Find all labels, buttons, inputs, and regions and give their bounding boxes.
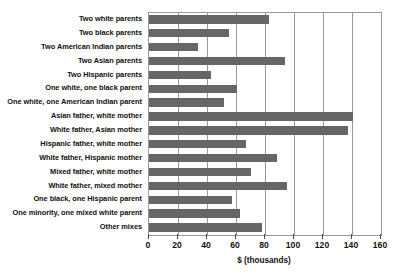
bar bbox=[149, 85, 237, 93]
x-axis-title: $ (thousands) bbox=[148, 256, 380, 265]
x-tick-label: 140 bbox=[344, 240, 358, 250]
bar bbox=[149, 71, 211, 79]
bar bbox=[149, 196, 232, 204]
bar bbox=[149, 98, 224, 106]
bar bbox=[149, 29, 229, 37]
bar-row bbox=[149, 221, 381, 235]
bar-row bbox=[149, 138, 381, 152]
x-tick bbox=[148, 234, 149, 239]
x-tick bbox=[351, 234, 352, 239]
category-label: Two black parents bbox=[0, 26, 146, 40]
bar-row bbox=[149, 193, 381, 207]
x-axis-tick-labels: 020406080100120140160 bbox=[0, 240, 393, 254]
x-tick bbox=[380, 234, 381, 239]
bar-row bbox=[149, 13, 381, 27]
category-label: Other mixes bbox=[0, 220, 146, 234]
category-label: Hispanic father, white mother bbox=[0, 137, 146, 151]
category-label: Two American Indian parents bbox=[0, 40, 146, 54]
bar-row bbox=[149, 180, 381, 194]
x-tick-label: 60 bbox=[230, 240, 240, 250]
bar-row bbox=[149, 41, 381, 55]
bar-row bbox=[149, 82, 381, 96]
bar bbox=[149, 209, 240, 217]
x-tick-label: 100 bbox=[286, 240, 300, 250]
plot-area bbox=[148, 12, 382, 236]
bar bbox=[149, 15, 269, 23]
bar-row bbox=[149, 124, 381, 138]
bar-row bbox=[149, 27, 381, 41]
x-tick bbox=[322, 234, 323, 239]
bar-chart: Two white parentsTwo black parentsTwo Am… bbox=[0, 0, 393, 278]
category-label: White father, mixed mother bbox=[0, 179, 146, 193]
x-tick bbox=[177, 234, 178, 239]
bar-row bbox=[149, 207, 381, 221]
x-tick bbox=[235, 234, 236, 239]
x-tick-label: 80 bbox=[259, 240, 269, 250]
bar bbox=[149, 168, 251, 176]
category-axis-labels: Two white parentsTwo black parentsTwo Am… bbox=[0, 12, 146, 234]
bar bbox=[149, 154, 277, 162]
bar-row bbox=[149, 69, 381, 83]
category-label: One white, one black parent bbox=[0, 81, 146, 95]
bar bbox=[149, 43, 198, 51]
bar bbox=[149, 140, 246, 148]
category-label: Mixed father, white mother bbox=[0, 165, 146, 179]
category-label: One black, one Hispanic parent bbox=[0, 192, 146, 206]
x-tick bbox=[206, 234, 207, 239]
bar bbox=[149, 223, 262, 231]
x-tick bbox=[264, 234, 265, 239]
category-label: White father, Hispanic mother bbox=[0, 151, 146, 165]
category-label: Asian father, white mother bbox=[0, 109, 146, 123]
bar-row bbox=[149, 152, 381, 166]
category-label: One white, one American Indian parent bbox=[0, 95, 146, 109]
x-tick-label: 0 bbox=[146, 240, 151, 250]
category-label: Two white parents bbox=[0, 12, 146, 26]
bar-row bbox=[149, 166, 381, 180]
x-tick-label: 20 bbox=[172, 240, 182, 250]
category-label: Two Hispanic parents bbox=[0, 68, 146, 82]
bar-row bbox=[149, 96, 381, 110]
bar bbox=[149, 126, 348, 134]
bar bbox=[149, 182, 287, 190]
bar bbox=[149, 112, 353, 120]
category-label: White father, Asian mother bbox=[0, 123, 146, 137]
x-tick-label: 40 bbox=[201, 240, 211, 250]
x-tick-label: 160 bbox=[373, 240, 387, 250]
bar-row bbox=[149, 110, 381, 124]
bars-layer bbox=[149, 13, 381, 235]
bar-row bbox=[149, 55, 381, 69]
x-tick-label: 120 bbox=[315, 240, 329, 250]
category-label: One minority, one mixed white parent bbox=[0, 206, 146, 220]
category-label: Two Asian parents bbox=[0, 54, 146, 68]
x-tick bbox=[293, 234, 294, 239]
bar bbox=[149, 57, 285, 65]
